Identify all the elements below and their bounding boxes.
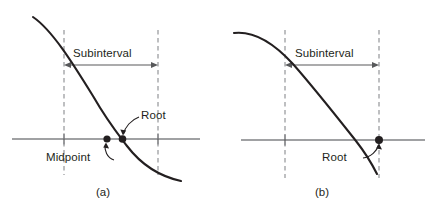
subinterval-arrow-b (285, 62, 379, 68)
midpoint-dot-a (103, 135, 110, 142)
panel-b: Subinterval Root (b) (215, 0, 431, 211)
subinterval-arrow-a (64, 62, 158, 68)
midpoint-label-a: Midpoint (46, 151, 90, 163)
panel-a: Subinterval Root Midpoint (a) (0, 0, 215, 211)
subinterval-label-a: Subinterval (73, 47, 132, 59)
figure-root: Subinterval Root Midpoint (a) (0, 0, 431, 211)
root-leader-arrowhead-b (376, 144, 382, 150)
panel-b-diagram (215, 0, 431, 211)
root-dot-a (119, 135, 127, 143)
root-leader-line-a (124, 117, 140, 134)
panel-caption-a: (a) (96, 186, 110, 198)
root-leader-line-b (363, 145, 379, 158)
panel-caption-b: (b) (315, 186, 329, 198)
root-label-b: Root (322, 151, 347, 163)
subinterval-label-b: Subinterval (295, 47, 354, 59)
midpoint-leader-arrowhead-a (103, 143, 109, 149)
root-leader-arrowhead-a (120, 129, 126, 135)
root-label-a: Root (141, 109, 166, 121)
root-dot-b (375, 136, 383, 144)
panel-a-diagram (0, 0, 215, 211)
